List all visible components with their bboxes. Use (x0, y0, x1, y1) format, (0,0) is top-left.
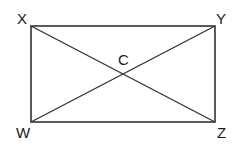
vertex-label-z: Z (217, 124, 226, 141)
rectangle-diagram: X Y Z W C (0, 0, 235, 146)
intersection-label-c: C (118, 51, 129, 68)
vertex-label-w: W (16, 124, 31, 141)
vertex-label-y: Y (216, 10, 226, 27)
vertex-label-x: X (17, 10, 27, 27)
